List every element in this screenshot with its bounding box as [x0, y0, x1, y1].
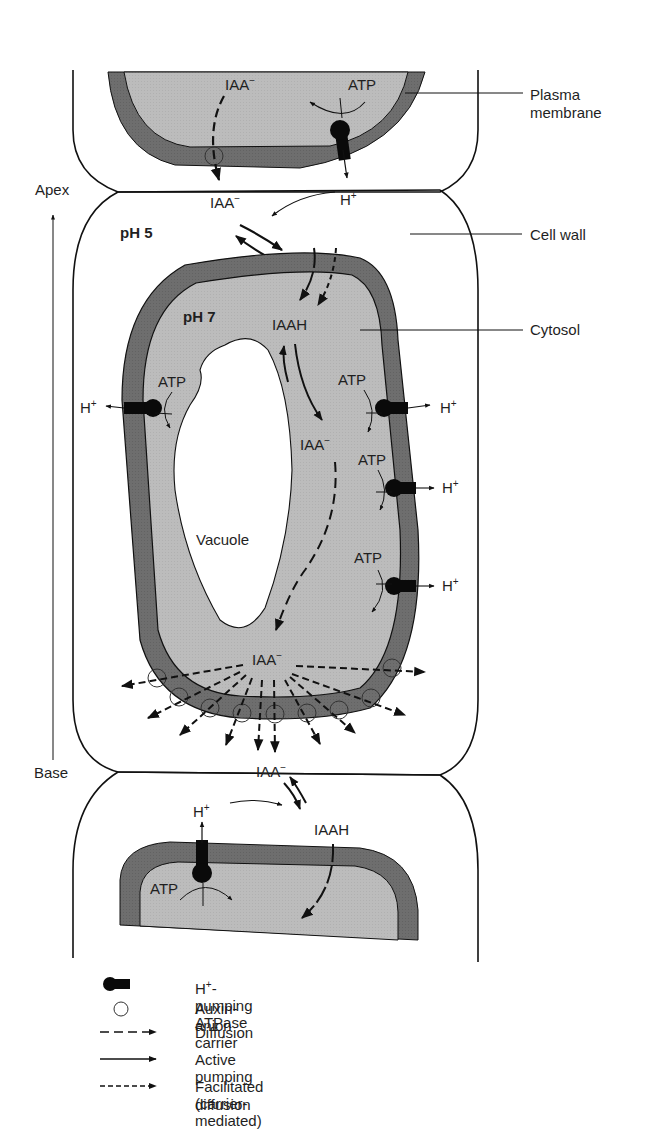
cytosol-iaah: IAAH [272, 316, 307, 333]
bottom-cell [73, 772, 478, 962]
plasma-membrane-label-2: membrane [530, 104, 602, 121]
bottom-junction-equilibrium [284, 777, 306, 809]
wall-iaa-anion: IAA− [210, 193, 240, 211]
vacuole-label: Vacuole [196, 531, 249, 548]
base-label: Base [34, 764, 68, 781]
proton-left: H+ [80, 398, 97, 416]
top-atp: ATP [348, 76, 376, 93]
lower-wall-iaa-anion: IAA− [256, 762, 286, 780]
cytosol-ph-label: pH 7 [183, 308, 216, 325]
legend-item-facilitated-line2: diffusion [195, 1096, 251, 1113]
top-cell [73, 70, 478, 216]
proton-right-3: H+ [442, 576, 459, 594]
proton-right-2: H+ [442, 478, 459, 496]
atp-right-2: ATP [358, 451, 386, 468]
wall-proton: H+ [340, 190, 357, 208]
cytosol-label: Cytosol [530, 321, 580, 338]
proton-right-1: H+ [440, 398, 457, 416]
auxin-transport-diagram: IAA− ATP IAA− H+ IAAH pH 5 pH 7 IAAH IAA… [0, 0, 655, 1146]
middle-cell [122, 253, 419, 719]
lower-proton: H+ [193, 802, 210, 820]
carrier-circle-icon [114, 1002, 128, 1016]
atp-left: ATP [158, 373, 186, 390]
atp-right-3: ATP [354, 549, 382, 566]
apex-label: Apex [35, 181, 70, 198]
plasma-membrane-label-1: Plasma [530, 86, 581, 103]
lower-atp: ATP [150, 880, 178, 897]
lower-iaah: IAAH [314, 821, 349, 838]
legend-icons [100, 977, 156, 1086]
atp-right-1: ATP [338, 371, 366, 388]
atpase-icon [103, 977, 130, 991]
cell-wall-label: Cell wall [530, 226, 586, 243]
wall-ph-label: pH 5 [120, 224, 153, 241]
legend-item-diffusion: Diffusion [195, 1024, 253, 1041]
